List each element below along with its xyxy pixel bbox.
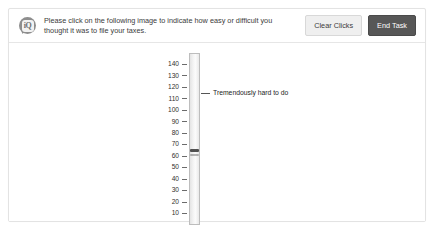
clear-clicks-button[interactable]: Clear Clicks (305, 15, 362, 36)
axis-tick-mark (182, 167, 187, 168)
prompt-text: Please click on the following image to i… (44, 16, 305, 36)
axis-tick-label: 140 (168, 61, 179, 68)
card-body: 140130120110100908070605040302010Tremend… (9, 43, 425, 221)
axis-tick-label: 20 (172, 198, 179, 205)
click-marker[interactable] (190, 154, 199, 156)
axis-tick-label: 130 (168, 72, 179, 79)
axis-tick-label: 90 (172, 118, 179, 125)
axis-tick-label: 40 (172, 175, 179, 182)
axis-tick-label: 30 (172, 187, 179, 194)
card-header: iQ Please click on the following image t… (9, 9, 425, 43)
axis-tick-label: 120 (168, 84, 179, 91)
axis-tick-mark (182, 156, 187, 157)
header-actions: Clear Clicks End Task (305, 15, 416, 36)
axis-tick-label: 80 (172, 129, 179, 136)
axis-tick-mark (182, 110, 187, 111)
axis-tick-label: 60 (172, 152, 179, 159)
axis-tick-mark (182, 87, 187, 88)
axis-tick-label: 110 (168, 95, 179, 102)
task-card: iQ Please click on the following image t… (8, 8, 426, 222)
axis-tick-mark (182, 179, 187, 180)
click-marker[interactable] (190, 149, 199, 152)
app-root: iQ Please click on the following image t… (0, 0, 434, 234)
axis-tick-mark (182, 98, 187, 99)
axis-tick-mark (182, 64, 187, 65)
annotation-leader-line (201, 93, 210, 94)
axis-tick-mark (182, 75, 187, 76)
axis-tick-mark (182, 121, 187, 122)
speech-bubble-iq-icon: iQ (19, 17, 36, 34)
axis-tick-mark (182, 144, 187, 145)
annotation-label: Tremendously hard to do (213, 89, 288, 96)
axis-tick-label: 50 (172, 164, 179, 171)
axis-tick-label: 70 (172, 141, 179, 148)
speech-bubble-icon-glyph: iQ (24, 22, 31, 30)
speech-bubble-icon-inner: iQ (22, 20, 34, 32)
end-task-button[interactable]: End Task (368, 15, 416, 36)
axis-tick-label: 10 (172, 210, 179, 217)
axis-tick-mark (182, 202, 187, 203)
axis-tick-mark (182, 190, 187, 191)
scale-bar[interactable] (189, 53, 200, 225)
axis-tick-mark (182, 133, 187, 134)
axis-tick-label: 100 (168, 107, 179, 114)
difficulty-scale-chart[interactable]: 140130120110100908070605040302010Tremend… (9, 43, 425, 221)
axis-tick-mark (182, 213, 187, 214)
